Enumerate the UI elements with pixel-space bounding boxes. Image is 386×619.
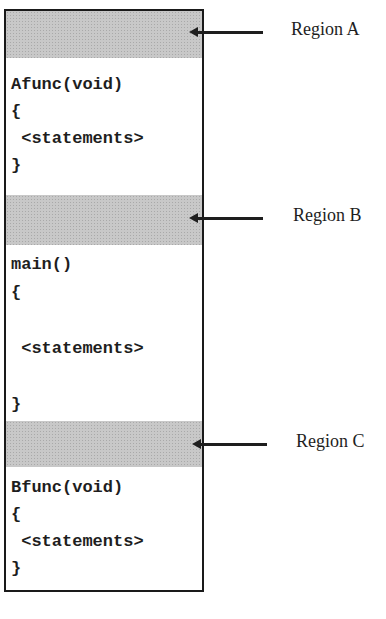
arrow-left-icon: [193, 217, 263, 220]
region-a-label: Region A: [291, 19, 360, 40]
bfunc-code-block: Bfunc(void) { <statements> }: [11, 474, 144, 582]
region-a-shaded: [6, 11, 202, 58]
main-code-block: main() { <statements> }: [11, 251, 144, 419]
arrow-left-icon: [196, 443, 267, 446]
region-c-shaded: [6, 421, 202, 467]
region-b-shaded: [6, 195, 202, 245]
afunc-code-block: Afunc(void) { <statements> }: [11, 71, 144, 179]
arrow-left-icon: [193, 31, 263, 34]
region-c-label: Region C: [296, 431, 365, 452]
region-b-label: Region B: [293, 205, 362, 226]
memory-layout-box: Afunc(void) { <statements> } main() { <s…: [4, 9, 204, 592]
